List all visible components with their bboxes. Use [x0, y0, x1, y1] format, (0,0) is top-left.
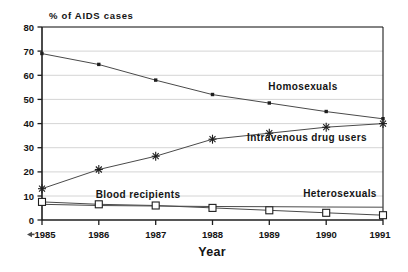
x-axis-title: Year [198, 245, 226, 259]
y-axis-title: % of AIDS cases [49, 10, 134, 21]
x-tick-labels: 1985 1986 1987 1988 1989 1990 1991 [34, 229, 391, 240]
annotation-homosexuals: Homosexuals [268, 81, 337, 92]
x-tick-label: 1989 [259, 229, 280, 240]
axis-origin-marker [27, 232, 35, 237]
x-tick-label: 1987 [145, 229, 166, 240]
annotation-blood-recipients: Blood recipients [96, 189, 181, 200]
y-tick-label: 80 [23, 22, 34, 33]
x-tick-label: 1985 [34, 229, 56, 240]
y-tick-label: 70 [23, 46, 34, 57]
y-tick-label: 20 [23, 166, 34, 177]
y-tick-label: 40 [23, 118, 34, 129]
y-tick-label: 10 [23, 191, 34, 202]
y-tick-label: 30 [23, 142, 34, 153]
y-tick-label: 0 [29, 215, 34, 226]
annotation-intravenous-drug-users: Intravenous drug users [247, 132, 367, 143]
y-tick-label: 50 [23, 94, 34, 105]
x-tick-label: 1986 [88, 229, 109, 240]
annotation-heterosexuals: Heterosexuals [303, 188, 377, 199]
chart-canvas: 80 70 60 50 40 30 20 10 0 1985 1986 1987… [0, 0, 408, 272]
x-tick-label: 1990 [316, 229, 337, 240]
y-tick-labels: 80 70 60 50 40 30 20 10 0 [23, 22, 34, 226]
x-tick-label: 1988 [202, 229, 223, 240]
x-tick-label: 1991 [369, 229, 391, 240]
aids-cases-line-chart: 80 70 60 50 40 30 20 10 0 1985 1986 1987… [0, 0, 408, 272]
y-tick-label: 60 [23, 70, 34, 81]
